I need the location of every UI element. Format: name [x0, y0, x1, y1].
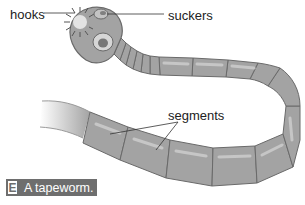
figure-caption: E A tapeworm. [6, 179, 97, 196]
label-suckers: suckers [168, 9, 213, 22]
tail-segment-faded [40, 101, 90, 138]
label-segments: segments [168, 109, 224, 122]
segment [212, 146, 257, 186]
label-hooks: hooks [10, 8, 45, 21]
tapeworm-illustration [0, 0, 305, 205]
caption-letter: E [6, 179, 19, 196]
segment [120, 127, 170, 178]
scolex-head [64, 7, 122, 63]
segment [166, 140, 213, 186]
segment [159, 57, 193, 76]
segment [192, 58, 228, 77]
neck-rings [114, 38, 160, 75]
caption-text: A tapeworm. [19, 179, 97, 196]
